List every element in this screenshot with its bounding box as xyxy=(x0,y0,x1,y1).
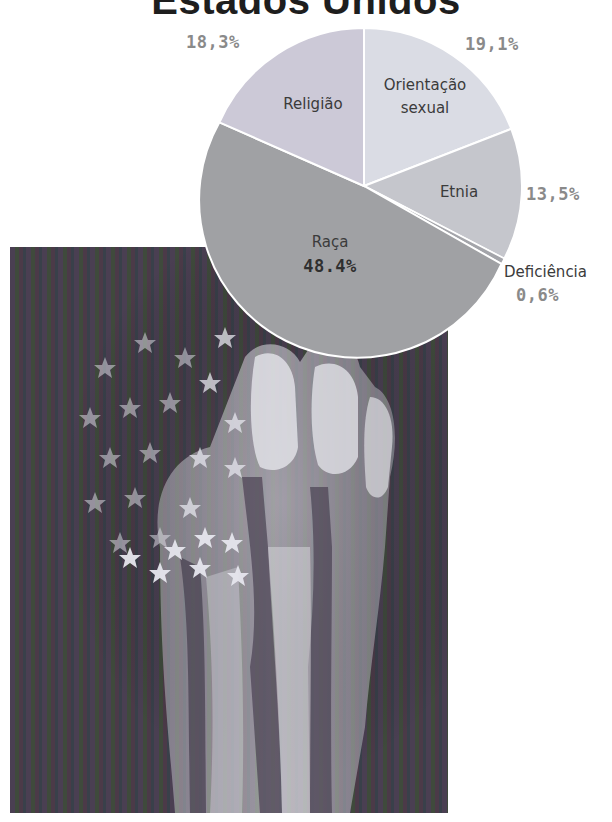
label-orientacao-line1: Orientação xyxy=(370,75,480,95)
pct-religiao: 18,3% xyxy=(186,32,240,52)
label-deficiencia: Deficiência xyxy=(504,262,612,282)
flag-fist-photo xyxy=(10,247,448,813)
label-raca: Raça xyxy=(290,232,370,252)
pct-raca: 48.4% xyxy=(288,256,372,276)
pct-orientacao-sexual: 19,1% xyxy=(465,34,519,54)
pct-etnia: 13,5% xyxy=(526,184,580,204)
label-orientacao-line2: sexual xyxy=(370,98,480,118)
pct-deficiencia: 0,6% xyxy=(516,285,559,305)
flag-fist-illustration xyxy=(10,247,448,813)
label-religiao: Religião xyxy=(268,94,358,114)
label-etnia: Etnia xyxy=(424,182,494,202)
chart-title: Estados Unidos xyxy=(0,0,612,23)
